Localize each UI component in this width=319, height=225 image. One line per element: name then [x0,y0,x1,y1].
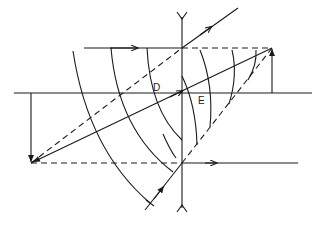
wavefront-arc-1 [73,51,150,203]
central-ray [31,48,272,163]
refracted-ray-arrow [200,27,211,35]
wavefront-arc-c [229,50,234,104]
dashed-from-image [182,48,272,163]
ray-diagram: D E [0,0,319,225]
wavefront-arc-3b [163,134,176,158]
incoming-lower-arrow [154,186,164,199]
label-d: D [153,82,160,93]
central-ray-arrow [170,91,182,97]
wavefront-arc-d [248,50,256,80]
wavefront-arc-a [182,76,197,145]
wavefront-arc-b [200,50,211,127]
dashed-to-lens-top [31,48,182,163]
label-e: E [198,95,205,106]
